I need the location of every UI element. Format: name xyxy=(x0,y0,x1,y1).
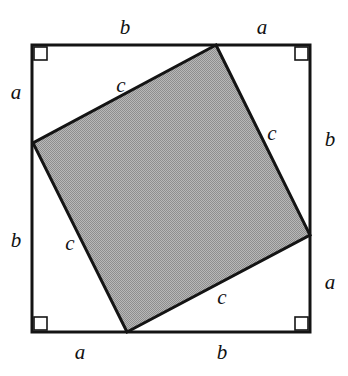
label-top-a: a xyxy=(257,17,268,38)
pythagorean-proof-diagram: b a b a a b a b c c c c xyxy=(0,0,348,376)
label-right-b: b xyxy=(325,129,336,150)
label-bottom-a: a xyxy=(75,342,86,363)
label-hypotenuse-bottom-left: c xyxy=(65,233,74,254)
right-angle-marker-top-left xyxy=(34,47,47,60)
label-hypotenuse-top-right: c xyxy=(267,123,276,144)
inner-tilted-square xyxy=(33,45,310,332)
right-angle-marker-top-right xyxy=(295,47,308,60)
label-bottom-b: b xyxy=(217,342,228,363)
label-top-b: b xyxy=(120,17,131,38)
label-left-b: b xyxy=(11,230,22,251)
right-angle-marker-bottom-left xyxy=(34,317,47,330)
right-angle-marker-bottom-right xyxy=(295,317,308,330)
label-left-a: a xyxy=(11,82,22,103)
label-right-a: a xyxy=(325,272,336,293)
label-hypotenuse-bottom-right: c xyxy=(217,287,226,308)
label-hypotenuse-top-left: c xyxy=(116,75,125,96)
diagram-canvas xyxy=(0,0,348,376)
